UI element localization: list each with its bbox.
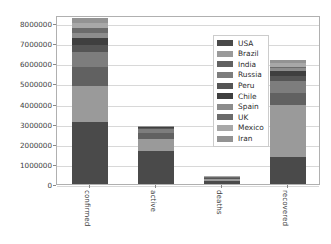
legend-label: Spain xyxy=(238,103,259,110)
legend-label: Iran xyxy=(238,135,252,142)
bar-segment-india xyxy=(270,93,306,105)
bar-confirmed[interactable] xyxy=(72,18,108,184)
legend-swatch-icon xyxy=(217,51,233,57)
chart-legend[interactable]: USABrazilIndiaRussiaPeruChileSpainUKMexi… xyxy=(213,35,269,147)
legend-item-spain[interactable]: Spain xyxy=(217,102,264,113)
legend-label: Mexico xyxy=(238,124,264,131)
y-tick-label: 8000000 xyxy=(0,20,52,29)
legend-item-russia[interactable]: Russia xyxy=(217,70,264,81)
bar-segment-india xyxy=(138,133,174,140)
y-tick-label: 1000000 xyxy=(0,160,52,169)
bar-segment-usa xyxy=(138,151,174,184)
legend-swatch-icon xyxy=(217,93,233,99)
legend-swatch-icon xyxy=(217,104,233,110)
legend-label: India xyxy=(238,61,256,68)
legend-label: Russia xyxy=(238,71,262,78)
legend-swatch-icon xyxy=(217,83,233,89)
bar-deaths[interactable] xyxy=(204,176,240,184)
y-tick-label: 0 xyxy=(0,181,52,190)
bar-segment-usa xyxy=(72,122,108,184)
legend-item-iran[interactable]: Iran xyxy=(217,133,264,144)
y-tick-label: 4000000 xyxy=(0,100,52,109)
legend-item-uk[interactable]: UK xyxy=(217,112,264,123)
legend-item-india[interactable]: India xyxy=(217,59,264,70)
y-tick-label: 6000000 xyxy=(0,60,52,69)
gridline xyxy=(57,186,319,187)
y-tick-label: 3000000 xyxy=(0,120,52,129)
bar-segment-india xyxy=(72,67,108,86)
legend-swatch-icon xyxy=(217,136,233,142)
bar-segment-brazil xyxy=(270,105,306,157)
bars-layer xyxy=(57,17,319,184)
legend-label: Chile xyxy=(238,93,257,100)
legend-label: UK xyxy=(238,114,248,121)
x-tick-mark xyxy=(287,185,288,188)
legend-item-brazil[interactable]: Brazil xyxy=(217,49,264,60)
legend-item-chile[interactable]: Chile xyxy=(217,91,264,102)
y-tick-label: 7000000 xyxy=(0,40,52,49)
legend-swatch-icon xyxy=(217,125,233,131)
legend-item-mexico[interactable]: Mexico xyxy=(217,123,264,134)
x-tick-label-confirmed: confirmed xyxy=(83,190,92,226)
bar-recovered[interactable] xyxy=(270,60,306,184)
bar-segment-brazil xyxy=(138,139,174,150)
x-tick-label-active: active xyxy=(149,190,158,212)
x-tick-label-recovered: recovered xyxy=(281,190,290,226)
x-tick-mark xyxy=(221,185,222,188)
legend-item-peru[interactable]: Peru xyxy=(217,80,264,91)
bar-active[interactable] xyxy=(138,126,174,184)
x-tick-mark xyxy=(155,185,156,188)
legend-item-usa[interactable]: USA xyxy=(217,38,264,49)
legend-swatch-icon xyxy=(217,61,233,67)
legend-swatch-icon xyxy=(217,114,233,120)
legend-label: Peru xyxy=(238,82,254,89)
plot-area: USABrazilIndiaRussiaPeruChileSpainUKMexi… xyxy=(56,16,320,185)
x-tick-mark xyxy=(89,185,90,188)
y-tick-label: 2000000 xyxy=(0,140,52,149)
bar-segment-peru xyxy=(72,45,108,52)
bar-segment-usa xyxy=(204,181,240,184)
bar-segment-usa xyxy=(270,157,306,184)
legend-label: Brazil xyxy=(238,50,259,57)
legend-swatch-icon xyxy=(217,40,233,46)
bar-segment-brazil xyxy=(72,86,108,121)
figure-canvas: 0100000020000003000000400000050000006000… xyxy=(0,0,331,244)
y-tick-label: 5000000 xyxy=(0,80,52,89)
bar-segment-russia xyxy=(72,52,108,68)
bar-segment-russia xyxy=(270,81,306,93)
x-tick-label-deaths: deaths xyxy=(215,190,224,215)
legend-swatch-icon xyxy=(217,72,233,78)
legend-label: USA xyxy=(238,40,253,47)
y-tick-mark xyxy=(53,185,56,186)
